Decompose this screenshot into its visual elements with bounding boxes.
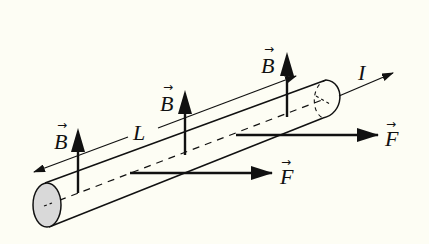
label-field-3: → B xyxy=(261,42,274,78)
wire-force-diagram: → B → B → B → F → F L I xyxy=(0,0,429,244)
label-field-1: → B xyxy=(54,118,67,154)
label-force-1: → F xyxy=(279,155,294,189)
field-arrow-2 xyxy=(178,90,192,155)
svg-text:F: F xyxy=(279,164,294,189)
cylinder-end-face xyxy=(33,183,61,227)
label-field-2: → B xyxy=(160,80,173,116)
svg-text:F: F xyxy=(384,126,399,151)
label-length: L xyxy=(132,120,145,145)
svg-text:B: B xyxy=(54,129,67,154)
svg-text:B: B xyxy=(160,91,173,116)
field-arrow-1 xyxy=(71,128,85,193)
label-current: I xyxy=(357,60,367,85)
label-force-2: → F xyxy=(384,117,399,151)
svg-text:B: B xyxy=(261,53,274,78)
diagram-canvas: → B → B → B → F → F L I xyxy=(0,0,429,244)
field-arrow-3 xyxy=(280,52,294,117)
current-arrow xyxy=(339,73,393,96)
